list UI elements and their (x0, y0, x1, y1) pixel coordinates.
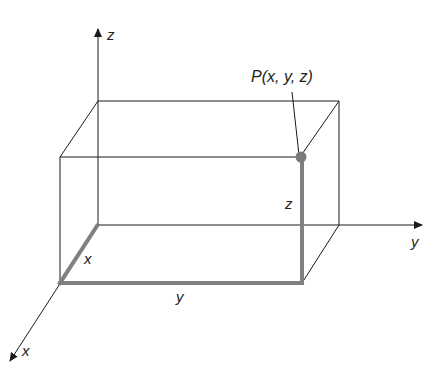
box-diagram: z y x P(x, y, z) x y z (0, 0, 429, 369)
y-edge-label: y (175, 288, 185, 305)
box-edge (60, 101, 98, 157)
box-edge (302, 225, 339, 283)
x-axis-label: x (21, 342, 30, 359)
z-axis-label: z (106, 26, 115, 43)
y-axis-label: y (410, 233, 420, 250)
point-p (296, 152, 307, 163)
z-edge-label: z (284, 195, 293, 212)
box-edge (300, 101, 339, 157)
point-label: P(x, y, z) (251, 68, 313, 85)
x-edge-label: x (83, 250, 92, 267)
